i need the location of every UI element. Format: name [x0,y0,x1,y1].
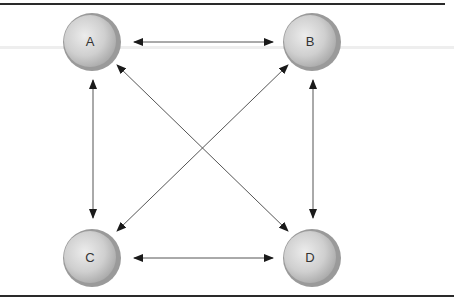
node-b-label: B [306,34,315,49]
node-c: C [63,229,121,287]
node-d-label: D [305,250,314,265]
node-c-label: C [85,250,94,265]
network-diagram: A B C D [0,0,454,303]
node-b: B [283,13,341,71]
node-d: D [283,229,341,287]
node-a-label: A [86,34,95,49]
node-a: A [63,13,121,71]
